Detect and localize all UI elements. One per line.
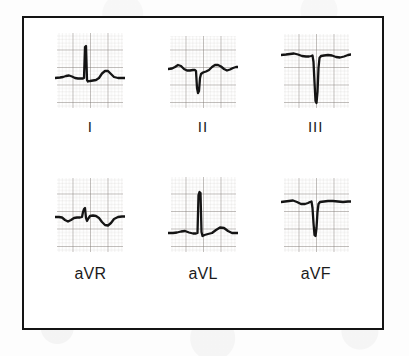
- ecg-lead-label-avl: aVL: [188, 266, 217, 282]
- figure-frame: I: [22, 16, 384, 330]
- ecg-tracing-avf: [281, 176, 351, 254]
- ecg-strip-ii: [168, 32, 238, 110]
- ecg-lead-label-avf: aVF: [301, 266, 331, 282]
- ecg-lead-avf: aVF: [259, 176, 372, 320]
- scanned-page: I: [0, 0, 409, 356]
- ecg-strip-avf: [281, 176, 351, 254]
- ecg-tracing-avr: [55, 176, 125, 254]
- ecg-strip-avr: [55, 176, 125, 254]
- ecg-strip-i: [55, 32, 125, 110]
- ecg-lead-ii: II: [147, 32, 260, 176]
- ecg-lead-grid: I: [24, 18, 382, 328]
- ecg-tracing-avl: [168, 176, 238, 254]
- ecg-tracing-ii: [168, 32, 238, 110]
- ecg-tracing-iii: [281, 32, 351, 110]
- ecg-tracing-i: [55, 32, 125, 110]
- ecg-lead-label-avr: aVR: [74, 266, 106, 282]
- ecg-strip-iii: [281, 32, 351, 110]
- ecg-lead-avr: aVR: [34, 176, 147, 320]
- ecg-lead-label-iii: III: [308, 119, 324, 134]
- ecg-lead-iii: III: [259, 32, 372, 176]
- ecg-lead-label-i: I: [88, 119, 93, 134]
- ecg-lead-label-ii: II: [198, 119, 208, 134]
- ecg-lead-i: I: [34, 32, 147, 176]
- ecg-strip-avl: [168, 176, 238, 254]
- ecg-lead-avl: aVL: [147, 176, 260, 320]
